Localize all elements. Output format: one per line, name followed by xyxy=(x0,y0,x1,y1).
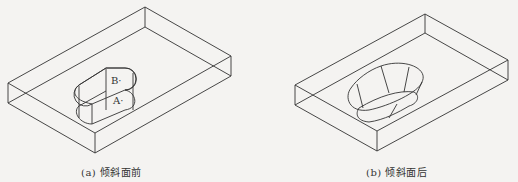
point-label-a: A· xyxy=(112,95,123,106)
figure-before-taper: (a) 倾斜面前 B· A· xyxy=(0,0,259,182)
point-labels: B· A· xyxy=(0,0,259,182)
figure-caption: (b) 倾斜面后 xyxy=(366,164,427,179)
block-with-tapered-slot-drawing xyxy=(259,0,518,182)
figure-after-taper: (b) 倾斜面后 xyxy=(259,0,518,182)
point-label-b: B· xyxy=(111,75,122,86)
